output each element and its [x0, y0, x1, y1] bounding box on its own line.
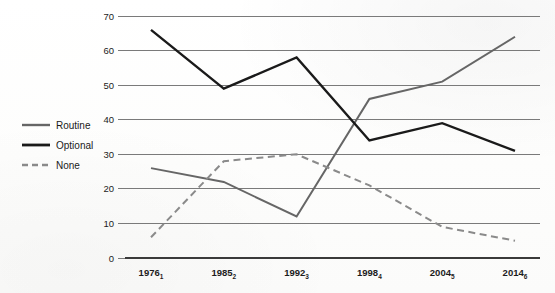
y-tick-label-0: 0	[109, 253, 114, 264]
legend-label-optional: Optional	[56, 140, 93, 151]
y-tick-label-30: 30	[103, 149, 114, 160]
y-tick-label-50: 50	[103, 80, 114, 91]
data-series	[151, 30, 515, 241]
y-tick-label-40: 40	[103, 114, 114, 125]
x-axis-tick-labels: 197611985219923199842004520146	[139, 267, 528, 280]
series-line-none	[151, 154, 515, 240]
x-tick-label-1998: 19984	[357, 267, 382, 280]
series-line-routine	[151, 37, 515, 217]
y-axis-tick-labels: 010203040506070	[103, 11, 125, 264]
y-tick-label-70: 70	[103, 11, 114, 22]
x-tick-label-2014: 20146	[503, 267, 528, 280]
series-line-optional	[151, 30, 515, 151]
y-tick-label-10: 10	[103, 218, 114, 229]
x-tick-label-1976: 19761	[139, 267, 164, 280]
y-tick-label-60: 60	[103, 45, 114, 56]
legend-label-routine: Routine	[56, 120, 91, 131]
chart-canvas: 010203040506070 197611985219923199842004…	[0, 0, 555, 293]
legend-label-none: None	[56, 160, 80, 171]
chart-legend: RoutineOptionalNone	[22, 120, 93, 171]
line-chart-figure: 010203040506070 197611985219923199842004…	[0, 0, 555, 293]
y-tick-label-20: 20	[103, 183, 114, 194]
x-tick-label-1992: 19923	[284, 267, 309, 280]
x-tick-label-1985: 19852	[211, 267, 236, 280]
x-tick-label-2004: 20045	[430, 267, 455, 280]
